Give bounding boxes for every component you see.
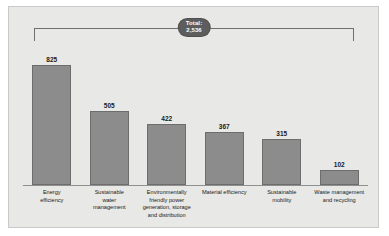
category-label-line: Waste management	[311, 189, 369, 197]
category-label-line: and recycling	[311, 197, 369, 205]
bar-value-label: 315	[276, 130, 287, 137]
category-label-line: generation, storage	[138, 204, 196, 212]
bracket-tick-left	[34, 28, 35, 41]
category-label-line: Environmentally	[138, 189, 196, 197]
bar-rect[interactable]	[90, 111, 129, 185]
category-label-line: Sustainable	[253, 189, 311, 197]
category-label: Energyefficiency	[23, 189, 81, 204]
bar-column[interactable]: 315	[262, 130, 301, 185]
bar-value-label: 102	[334, 161, 345, 168]
category-label: Sustainablemobility	[253, 189, 311, 204]
category-label: Environmentallyfriendly powergeneration,…	[138, 189, 196, 219]
category-label-line: Material efficiency	[196, 189, 254, 197]
total-badge-value: 2,536	[186, 27, 203, 34]
category-label: Sustainablewatermanagement	[81, 189, 139, 212]
x-axis-baseline	[23, 185, 368, 186]
bar-column[interactable]: 505	[90, 102, 129, 185]
bar-value-label: 367	[219, 123, 230, 130]
category-label-line: efficiency	[23, 197, 81, 205]
bar-rect[interactable]	[320, 170, 359, 185]
total-bracket: Total: 2,536	[34, 19, 354, 41]
bar-value-label: 505	[104, 102, 115, 109]
bar-column[interactable]: 422	[147, 115, 186, 185]
bar-rect[interactable]	[32, 65, 71, 185]
category-label-line: mobility	[253, 197, 311, 205]
category-axis-labels: EnergyefficiencySustainablewatermanageme…	[23, 189, 368, 234]
bar-column[interactable]: 825	[32, 56, 71, 185]
chart-panel: Total: 2,536 825505422367315102 Energyef…	[8, 6, 379, 228]
category-label-line: Energy	[23, 189, 81, 197]
bar-column[interactable]: 367	[205, 123, 244, 185]
bar-rect[interactable]	[147, 124, 186, 185]
bar-rect[interactable]	[205, 132, 244, 185]
total-badge-label: Total:	[186, 20, 203, 27]
bar-column[interactable]: 102	[320, 161, 359, 185]
category-label-line: water	[81, 197, 139, 205]
bar-value-label: 825	[46, 56, 57, 63]
category-label-line: management	[81, 204, 139, 212]
category-label: Material efficiency	[196, 189, 254, 197]
total-badge: Total: 2,536	[179, 19, 210, 36]
bar-value-label: 422	[161, 115, 172, 122]
category-label-line: friendly power	[138, 197, 196, 205]
plot-area: 825505422367315102	[23, 41, 368, 186]
bracket-tick-right	[353, 28, 354, 41]
bar-rect[interactable]	[262, 139, 301, 185]
category-label-line: Sustainable	[81, 189, 139, 197]
category-label-line: and distribution	[138, 212, 196, 220]
category-label: Waste managementand recycling	[311, 189, 369, 204]
